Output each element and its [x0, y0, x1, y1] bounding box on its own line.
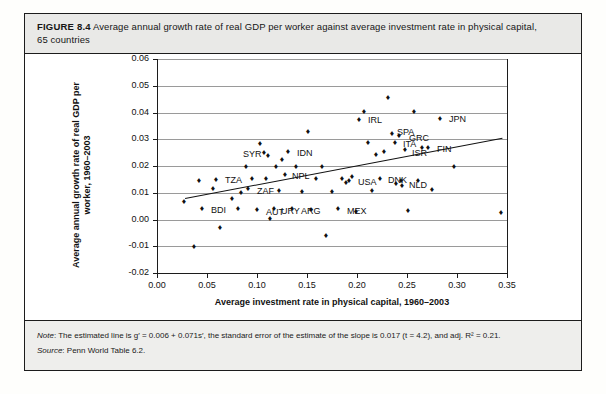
- y-tick-label: 0.06: [109, 53, 149, 63]
- figure-caption-line2: 65 countries: [37, 33, 569, 46]
- figure-header: FIGURE 8.4 Average annual growth rate of…: [25, 14, 581, 54]
- point-label-irl: IRL: [368, 115, 382, 125]
- y-tick-label: 0.02: [109, 160, 149, 170]
- y-axis-line: [157, 59, 158, 273]
- y-tick-label: 0.05: [109, 80, 149, 90]
- x-tick-mark: [307, 273, 308, 278]
- point-label-zaf: ZAF: [257, 186, 274, 196]
- point-label-npl: NPL: [292, 171, 310, 181]
- y-tick-label: -0.01: [109, 240, 149, 250]
- figure-caption-text1: Average annual growth rate of real GDP p…: [93, 21, 537, 32]
- note-text: : The estimated line is g′ = 0.006 + 0.0…: [54, 331, 501, 340]
- y-tick-label: 0.01: [109, 187, 149, 197]
- note-prefix: Note: [37, 331, 54, 340]
- x-tick-label: 0.10: [237, 280, 277, 290]
- point-label-jpn: JPN: [449, 114, 466, 124]
- point-label-idn: IDN: [297, 148, 313, 158]
- y-axis-title-wrap: Average annual growth rate of real GDP p…: [75, 68, 101, 282]
- figure-number: FIGURE 8.4: [37, 21, 91, 32]
- y-axis-title: Average annual growth rate of real GDP p…: [71, 68, 97, 282]
- x-tick-mark: [507, 273, 508, 278]
- x-tick-mark: [157, 273, 158, 278]
- figure-footer: Note: The estimated line is g′ = 0.006 +…: [25, 320, 581, 370]
- x-tick-label: 0.25: [387, 280, 427, 290]
- gridline-y: [157, 139, 507, 140]
- gridline-y: [157, 86, 507, 87]
- point-label-fin: FIN: [437, 144, 452, 154]
- source-text: : Penn World Table 6.2.: [62, 346, 145, 355]
- x-tick-label: 0.05: [187, 280, 227, 290]
- gridline-y: [157, 220, 507, 221]
- x-tick-label: 0.20: [337, 280, 377, 290]
- point-label-tza: TZA: [225, 175, 242, 185]
- gridline-y: [157, 59, 507, 60]
- x-axis-title: Average investment rate in physical capi…: [157, 297, 507, 307]
- plot-region: 0.060.050.040.030.020.010.00-0.01-0.020.…: [157, 59, 507, 273]
- figure-box: FIGURE 8.4 Average annual growth rate of…: [24, 13, 582, 371]
- x-tick-mark: [207, 273, 208, 278]
- x-tick-mark: [257, 273, 258, 278]
- x-tick-mark: [457, 273, 458, 278]
- figure-page: FIGURE 8.4 Average annual growth rate of…: [0, 0, 606, 394]
- y-tick-label: 0.00: [109, 214, 149, 224]
- y-tick-label: -0.02: [109, 267, 149, 277]
- chart-area: Average annual growth rate of real GDP p…: [25, 54, 581, 320]
- point-label-bdi: BDI: [211, 205, 226, 215]
- x-tick-label: 0.00: [137, 280, 177, 290]
- y-tick-label: 0.03: [109, 133, 149, 143]
- gridline-y: [157, 273, 507, 274]
- plot-right-spine: [507, 59, 508, 273]
- figure-note: Note: The estimated line is g′ = 0.006 +…: [37, 328, 569, 343]
- x-tick-label: 0.15: [287, 280, 327, 290]
- x-tick-mark: [407, 273, 408, 278]
- y-tick-label: 0.04: [109, 107, 149, 117]
- source-prefix: Source: [37, 346, 62, 355]
- x-tick-label: 0.30: [437, 280, 477, 290]
- point-label-syr: SYR: [243, 149, 262, 159]
- figure-caption-line1: FIGURE 8.4 Average annual growth rate of…: [37, 20, 569, 33]
- figure-source: Source: Penn World Table 6.2.: [37, 343, 569, 358]
- x-tick-label: 0.35: [487, 280, 527, 290]
- gridline-y: [157, 246, 507, 247]
- x-tick-mark: [357, 273, 358, 278]
